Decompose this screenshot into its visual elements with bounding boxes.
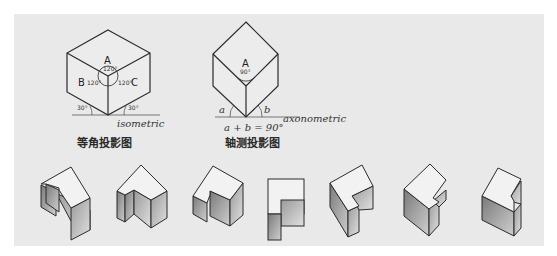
- angle-label-a: 120°: [103, 65, 117, 72]
- axonometric-label: axonometric: [283, 113, 346, 124]
- l-block-example-7: [482, 168, 521, 236]
- l-block-example-5: [330, 165, 373, 237]
- l-block-example-1: [41, 167, 90, 240]
- l-block-example-6: [404, 164, 446, 236]
- plan-view-example: [268, 179, 304, 240]
- isometric-caption: 等角投影图: [77, 134, 132, 150]
- axonometric-caption: 轴测投影图: [225, 134, 280, 150]
- base-angle-left: 30°: [77, 104, 88, 111]
- isometric-label: isometric: [117, 118, 164, 129]
- axo-base-angle-b: b: [264, 104, 270, 115]
- l-block-example-2: [117, 165, 167, 228]
- axo-base-angle-a: a: [219, 104, 225, 115]
- face-label-c: C: [131, 77, 138, 88]
- axo-angle-label: 90°: [240, 68, 251, 75]
- isometric-cube: [67, 30, 160, 115]
- axo-formula: a + b = 90°: [224, 122, 284, 133]
- angle-label-b: 120°: [87, 79, 101, 86]
- face-label-b: B: [78, 77, 85, 88]
- axonometric-cube: [213, 22, 300, 117]
- l-block-example-3: [193, 166, 243, 226]
- base-angle-right: 30°: [128, 104, 139, 111]
